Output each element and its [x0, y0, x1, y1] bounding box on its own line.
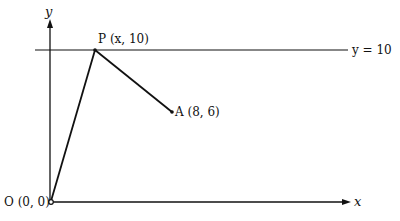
- segment-PA: [95, 50, 172, 112]
- point-A-label: A (8, 6): [175, 106, 220, 118]
- segment-OP: [51, 50, 95, 201]
- x-axis-arrow-icon: [342, 199, 351, 205]
- point-P: [93, 48, 97, 52]
- point-A: [170, 110, 174, 114]
- line-label: y = 10: [352, 44, 392, 56]
- point-P-label: P (x, 10): [98, 33, 149, 45]
- y-axis-arrow-icon: [47, 19, 53, 28]
- y-axis-label: y: [45, 5, 52, 18]
- point-O-label: O (0, 0): [4, 196, 50, 208]
- x-axis-label: x: [354, 195, 361, 208]
